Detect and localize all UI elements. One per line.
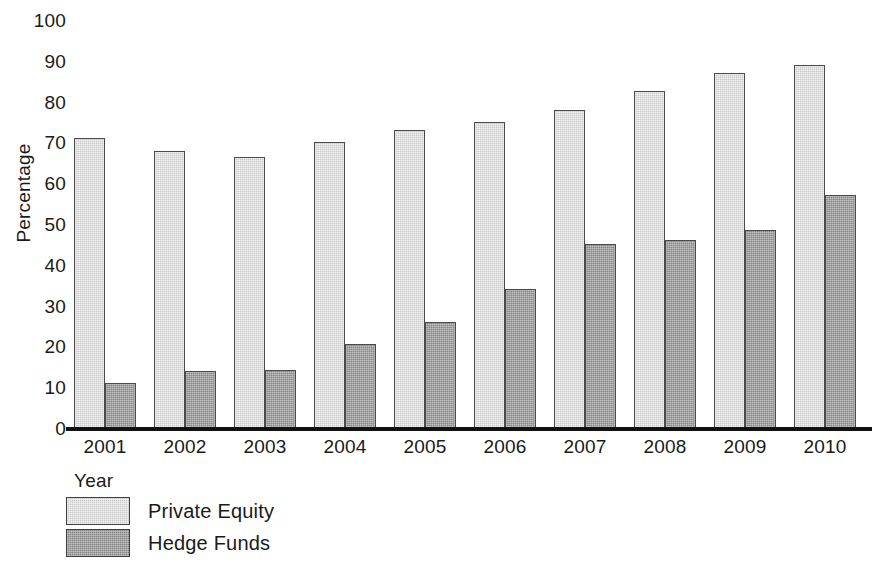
bar-private-equity-2008 bbox=[634, 91, 665, 428]
bar-group bbox=[388, 20, 468, 428]
y-axis-tick-label: 50 bbox=[22, 215, 66, 234]
x-axis-tick-label: 2008 bbox=[620, 436, 710, 458]
x-axis-tick-label: 2010 bbox=[780, 436, 870, 458]
bar-hedge-funds-2001 bbox=[105, 383, 136, 428]
y-axis-tick-label: 10 bbox=[22, 378, 66, 397]
bar-hedge-funds-2002 bbox=[185, 371, 216, 428]
bar-private-equity-2007 bbox=[554, 110, 585, 428]
legend: Year Private EquityHedge Funds bbox=[66, 470, 396, 561]
bar-hedge-funds-2006 bbox=[505, 289, 536, 428]
bar-group bbox=[628, 20, 708, 428]
bar-private-equity-2010 bbox=[794, 65, 825, 428]
legend-entries: Private EquityHedge Funds bbox=[66, 497, 396, 557]
bar-private-equity-2002 bbox=[154, 151, 185, 428]
bar-group bbox=[548, 20, 628, 428]
bar-group bbox=[468, 20, 548, 428]
bar-group bbox=[228, 20, 308, 428]
bar-group bbox=[68, 20, 148, 428]
y-axis-tick-label: 90 bbox=[22, 52, 66, 71]
bar-private-equity-2009 bbox=[714, 73, 745, 428]
y-axis-tick-label: 60 bbox=[22, 174, 66, 193]
legend-entry: Hedge Funds bbox=[66, 529, 396, 557]
y-axis-tick-label: 100 bbox=[22, 11, 66, 30]
x-axis-line bbox=[66, 427, 872, 431]
y-axis-tick-label: 80 bbox=[22, 93, 66, 112]
x-axis-tick-label: 2009 bbox=[700, 436, 790, 458]
bar-hedge-funds-2008 bbox=[665, 240, 696, 428]
legend-title: Year bbox=[74, 470, 396, 492]
bar-group bbox=[788, 20, 868, 428]
bar-hedge-funds-2005 bbox=[425, 322, 456, 428]
legend-swatch-private-equity bbox=[66, 497, 130, 525]
x-axis-tick-label: 2007 bbox=[540, 436, 630, 458]
y-axis-tick-label: 40 bbox=[22, 256, 66, 275]
y-axis-tick-label: 20 bbox=[22, 337, 66, 356]
y-axis-tick-label: 70 bbox=[22, 133, 66, 152]
legend-entry: Private Equity bbox=[66, 497, 396, 525]
legend-label: Hedge Funds bbox=[148, 532, 270, 555]
bar-hedge-funds-2004 bbox=[345, 344, 376, 428]
bar-private-equity-2001 bbox=[74, 138, 105, 428]
bar-hedge-funds-2003 bbox=[265, 370, 296, 428]
bar-private-equity-2006 bbox=[474, 122, 505, 428]
bar-group bbox=[148, 20, 228, 428]
bar-private-equity-2004 bbox=[314, 142, 345, 428]
x-axis-tick-label: 2005 bbox=[380, 436, 470, 458]
x-axis-tick-label: 2004 bbox=[300, 436, 390, 458]
x-axis-tick-label: 2006 bbox=[460, 436, 550, 458]
plot-area bbox=[68, 20, 868, 428]
legend-swatch-hedge-funds bbox=[66, 529, 130, 557]
bar-group bbox=[308, 20, 388, 428]
x-axis-tick-label: 2002 bbox=[140, 436, 230, 458]
bar-hedge-funds-2010 bbox=[825, 195, 856, 428]
x-axis-tick-label: 2003 bbox=[220, 436, 310, 458]
legend-label: Private Equity bbox=[148, 500, 274, 523]
y-axis-ticks: 0102030405060708090100 bbox=[22, 0, 66, 573]
bar-chart: Percentage 0102030405060708090100 Year P… bbox=[0, 0, 880, 573]
bar-hedge-funds-2007 bbox=[585, 244, 616, 428]
bar-private-equity-2003 bbox=[234, 157, 265, 428]
x-axis-tick-label: 2001 bbox=[60, 436, 150, 458]
bar-private-equity-2005 bbox=[394, 130, 425, 428]
bar-hedge-funds-2009 bbox=[745, 230, 776, 428]
bar-group bbox=[708, 20, 788, 428]
y-axis-tick-label: 30 bbox=[22, 297, 66, 316]
